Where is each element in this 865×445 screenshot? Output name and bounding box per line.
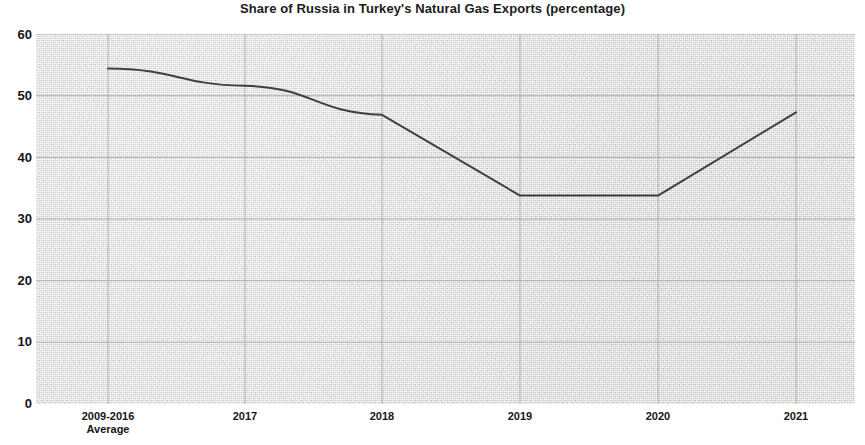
y-tick-label-60: 60 (2, 28, 32, 41)
x-tick-label-0-line2: Average (48, 423, 168, 436)
y-tick-label-50: 50 (2, 89, 32, 102)
x-tick-label-2: 2018 (322, 410, 442, 423)
x-tick-label-2-line1: 2018 (370, 410, 394, 422)
y-tick-label-30: 30 (2, 212, 32, 225)
chart-root: Share of Russia in Turkey's Natural Gas … (0, 0, 865, 445)
plot-area (36, 34, 855, 404)
x-tick-label-1: 2017 (185, 410, 305, 423)
y-axis: 60 50 40 30 20 10 0 (0, 0, 32, 445)
x-tick-label-5: 2021 (736, 410, 856, 423)
y-tick-label-20: 20 (2, 274, 32, 287)
series-line-0 (108, 69, 796, 196)
x-tick-label-3: 2019 (460, 410, 580, 423)
data-series (108, 69, 796, 196)
gridlines (36, 34, 855, 404)
x-tick-label-0-line1: 2009-2016 (82, 410, 135, 422)
x-tick-label-0: 2009-2016 Average (48, 410, 168, 436)
x-tick-label-1-line1: 2017 (233, 410, 257, 422)
chart-title: Share of Russia in Turkey's Natural Gas … (0, 1, 865, 16)
x-tick-label-5-line1: 2021 (784, 410, 808, 422)
chart-canvas (36, 34, 855, 404)
x-tick-label-3-line1: 2019 (508, 410, 532, 422)
y-tick-label-10: 10 (2, 335, 32, 348)
x-tick-label-4: 2020 (598, 410, 718, 423)
y-tick-label-0: 0 (2, 397, 32, 410)
y-tick-label-40: 40 (2, 151, 32, 164)
x-tick-label-4-line1: 2020 (646, 410, 670, 422)
